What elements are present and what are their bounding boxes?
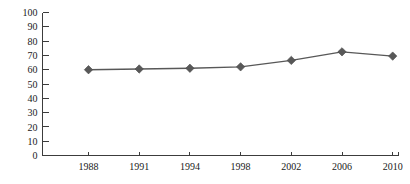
x-tick-label: 2010	[383, 161, 403, 172]
y-tick-label: 60	[28, 64, 38, 75]
x-tick-label: 2006	[332, 161, 352, 172]
y-tick-label: 40	[28, 93, 38, 104]
data-point-marker	[338, 48, 346, 56]
x-tick-label: 1988	[79, 161, 99, 172]
x-tick-label: 1994	[180, 161, 200, 172]
y-tick-label: 90	[28, 21, 38, 32]
data-point-marker	[186, 64, 194, 72]
x-tick-label: 1998	[231, 161, 251, 172]
y-tick-label: 100	[23, 7, 38, 18]
y-tick-label: 50	[28, 79, 38, 90]
y-tick-label: 20	[28, 122, 38, 133]
x-axis: 1988199119941998200220062010	[43, 152, 403, 172]
y-tick-label: 70	[28, 50, 38, 61]
data-point-marker	[389, 52, 397, 60]
data-series	[84, 48, 397, 74]
data-point-marker	[84, 66, 92, 74]
y-tick-label: 10	[28, 136, 38, 147]
chart-canvas: 0102030405060708090100 19881991199419982…	[0, 0, 410, 184]
data-point-marker	[135, 65, 143, 73]
data-point-marker	[287, 56, 295, 64]
data-point-marker	[236, 63, 244, 71]
y-axis: 0102030405060708090100	[23, 7, 49, 161]
y-tick-label: 0	[33, 150, 38, 161]
y-tick-label: 80	[28, 36, 38, 47]
line-chart: 0102030405060708090100 19881991199419982…	[0, 0, 410, 184]
x-tick-label: 2002	[281, 161, 301, 172]
x-tick-label: 1991	[129, 161, 149, 172]
y-tick-label: 30	[28, 107, 38, 118]
